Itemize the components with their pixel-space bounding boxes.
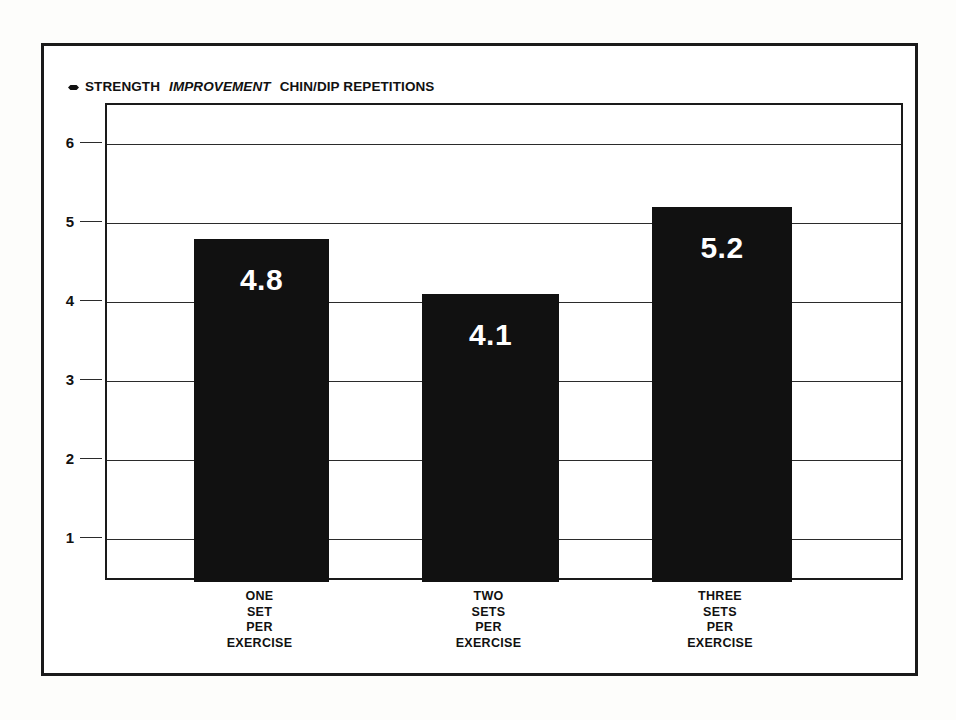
y-axis-labels: 654321 (36, 103, 74, 580)
y-axis-tick-label: 4 (48, 292, 74, 309)
diamond-bullet-icon (68, 84, 79, 91)
category-label-line: THREE (630, 589, 810, 605)
category-label-line: PER (630, 620, 810, 636)
bar-value-label: 5.2 (700, 231, 743, 265)
bar-value-label: 4.8 (240, 263, 283, 297)
chart-title-tail: CHIN/DIP REPETITIONS (280, 79, 435, 94)
y-axis-tick-label: 6 (48, 134, 74, 151)
category-label-line: EXERCISE (630, 636, 810, 652)
y-axis-tick (80, 458, 102, 459)
category-label: ONESETPEREXERCISE (170, 589, 350, 651)
y-axis-tick (80, 142, 102, 143)
category-label-line: SET (170, 605, 350, 621)
y-axis-tick-label: 5 (48, 213, 74, 230)
y-axis-tick (80, 221, 102, 222)
page-background: STRENGTH IMPROVEMENT CHIN/DIP REPETITION… (0, 0, 956, 720)
category-label: THREESETSPEREXERCISE (630, 589, 810, 651)
category-label-line: EXERCISE (399, 636, 579, 652)
gridline (107, 144, 901, 145)
bar: 4.1 (422, 294, 559, 582)
y-axis-tick (80, 379, 102, 380)
category-label-line: TWO (399, 589, 579, 605)
bar: 4.8 (194, 239, 329, 582)
bar: 5.2 (652, 207, 792, 582)
chart-title: STRENGTH IMPROVEMENT CHIN/DIP REPETITION… (68, 79, 434, 94)
category-label-line: SETS (630, 605, 810, 621)
category-label-line: ONE (170, 589, 350, 605)
category-label-line: EXERCISE (170, 636, 350, 652)
y-axis-tick-label: 3 (48, 370, 74, 387)
y-axis-tick-label: 1 (48, 528, 74, 545)
plot-area: 4.84.15.2 (105, 103, 903, 580)
category-label: TWOSETSPEREXERCISE (399, 589, 579, 651)
y-axis-tick (80, 300, 102, 301)
chart-title-emphasis: IMPROVEMENT (166, 79, 274, 94)
y-axis-tick (80, 537, 102, 538)
chart-title-lead: STRENGTH (85, 79, 160, 94)
category-label-line: SETS (399, 605, 579, 621)
category-label-line: PER (399, 620, 579, 636)
y-axis-tick-label: 2 (48, 449, 74, 466)
bar-value-label: 4.1 (469, 318, 512, 352)
category-label-line: PER (170, 620, 350, 636)
